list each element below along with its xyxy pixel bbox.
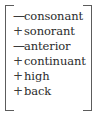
feature-name: anterior <box>24 39 71 54</box>
feature-name: high <box>24 69 49 84</box>
feature-row: + back <box>13 84 83 99</box>
feature-sign: — <box>13 9 24 24</box>
feature-matrix-figure: — consonant + sonorant — anterior + cont… <box>0 0 97 116</box>
feature-name: continuant <box>24 54 86 69</box>
right-bracket-bottom-serif <box>83 110 92 111</box>
feature-list: — consonant + sonorant — anterior + cont… <box>13 9 83 99</box>
right-bracket-stem <box>91 5 92 111</box>
feature-row: + high <box>13 69 83 84</box>
left-bracket-top-serif <box>5 5 14 6</box>
feature-sign: — <box>13 39 24 54</box>
feature-row: — consonant <box>13 9 83 24</box>
feature-name: consonant <box>24 9 83 24</box>
left-bracket-stem <box>5 5 6 111</box>
feature-sign: + <box>13 69 24 84</box>
feature-sign: + <box>13 24 24 39</box>
feature-row: — anterior <box>13 39 83 54</box>
feature-sign: + <box>13 84 24 99</box>
feature-row: + sonorant <box>13 24 83 39</box>
left-bracket-bottom-serif <box>5 110 14 111</box>
feature-row: + continuant <box>13 54 83 69</box>
feature-name: sonorant <box>24 24 75 39</box>
feature-name: back <box>24 84 51 99</box>
feature-sign: + <box>13 54 24 69</box>
right-square-bracket <box>83 5 92 111</box>
